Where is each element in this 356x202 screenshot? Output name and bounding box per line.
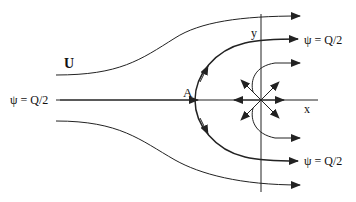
streamline-lower-outer — [56, 121, 300, 185]
source-arrow-ur — [261, 82, 279, 100]
uniform-flow-label: U — [64, 57, 74, 71]
source-arrow-lr — [261, 100, 279, 118]
stagnation-point-label: A — [183, 86, 192, 99]
source-arrow-ll — [241, 100, 261, 120]
dividing-streamline-upper-label: ψ = Q/2 — [304, 34, 342, 46]
inner-streamline-lower — [252, 108, 300, 138]
dividing-streamline-lower — [195, 100, 298, 161]
inner-streamline-upper — [252, 63, 300, 92]
streamline-diagram — [0, 0, 356, 202]
dividing-streamline-left-label: ψ = Q/2 — [10, 94, 48, 106]
arrow-upper-body — [200, 66, 208, 82]
dividing-streamline-lower-label: ψ = Q/2 — [304, 155, 342, 167]
source-arrow-ul — [241, 80, 261, 100]
dividing-streamline-upper — [195, 39, 298, 100]
x-axis-label: x — [304, 103, 310, 115]
y-axis-label: y — [251, 27, 257, 39]
arrow-lower-body — [200, 118, 208, 134]
